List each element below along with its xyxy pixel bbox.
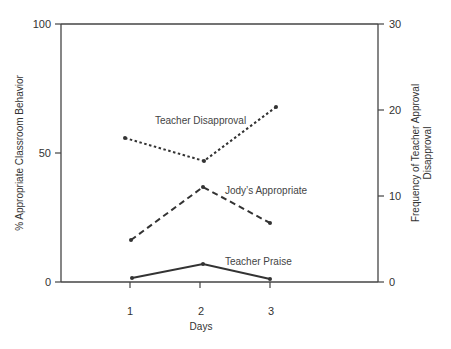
left-tick-label-50: 50 xyxy=(39,147,51,159)
x-tick-label-1: 1 xyxy=(127,305,133,317)
jody-point-3 xyxy=(268,221,272,225)
series-label-jody-appropriate: Jody’s Appropriate xyxy=(225,185,308,196)
praise-point-3 xyxy=(268,277,272,281)
disapproval-point-2 xyxy=(202,159,206,163)
praise-point-1 xyxy=(130,276,134,280)
series-label-teacher-praise: Teacher Praise xyxy=(225,256,292,267)
series-label-teacher-disapproval: Teacher Disapproval xyxy=(155,115,246,126)
left-axis-title: % Appropriate Classroom Behavior xyxy=(14,75,25,231)
right-tick-label-20: 20 xyxy=(389,104,401,116)
praise-point-2 xyxy=(201,262,205,266)
x-axis-title: Days xyxy=(190,321,213,332)
right-axis-title-line1: Frequency of Teacher Approval xyxy=(410,84,421,222)
right-tick-label-30: 30 xyxy=(389,18,401,30)
disapproval-point-3 xyxy=(274,105,278,109)
left-tick-label-0: 0 xyxy=(45,276,51,288)
chart-canvas: 100 50 0 30 20 10 0 1 2 3 Days % Appropr… xyxy=(0,0,451,349)
right-axis-title-line2: Disapproval xyxy=(422,127,433,180)
disapproval-point-1 xyxy=(123,136,127,140)
x-tick-label-2: 2 xyxy=(198,305,204,317)
jody-point-1 xyxy=(129,238,133,242)
jody-point-2 xyxy=(201,185,205,189)
left-tick-label-100: 100 xyxy=(33,18,51,30)
right-tick-label-10: 10 xyxy=(389,190,401,202)
right-tick-label-0: 0 xyxy=(389,276,395,288)
x-tick-label-3: 3 xyxy=(268,305,274,317)
